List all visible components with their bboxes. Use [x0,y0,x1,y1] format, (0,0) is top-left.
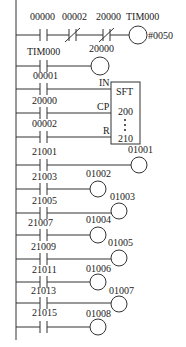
sft-end: 210 [118,133,133,144]
coil-label: 01002 [86,168,111,179]
timer-label: TIM000 [126,11,159,22]
contact-label: 21007 [28,217,53,228]
timer-preset: #0050 [148,30,173,41]
coil-label: 01004 [86,214,111,225]
sft-name: SFT [116,86,133,97]
sft-block: SFT 200 210 00001 IN 20000 CP 00002 R [16,70,140,144]
contact-label: 00001 [33,70,58,81]
ladder-diagram: 00000 00002 20000 TIM000 #0050 TIM000 20… [0,0,186,347]
timer-coil-icon [129,26,147,44]
contact-label: 00002 [32,118,57,129]
contact-label: 20000 [96,11,121,22]
contact-label: 21011 [32,264,57,275]
contact-label: 21005 [32,195,57,206]
output-rung: 21007 01004 [16,214,111,243]
output-rung: 21009 01005 [16,237,133,266]
output-rung: 21015 01008 [16,307,111,335]
contact-label: 20000 [32,95,57,106]
contact-label: 21009 [31,241,56,252]
contact-label: TIM000 [27,46,60,57]
contact-no [40,29,47,41]
contact-label: 00002 [62,11,87,22]
output-rung: 21001 01001 [16,144,153,173]
coil-label: 01007 [109,285,134,296]
coil-label: 20000 [89,43,114,54]
contact-label: 21001 [32,146,57,157]
output-rung: 21003 01002 [16,168,111,197]
rung-1: 00000 00002 20000 TIM000 #0050 [16,11,173,44]
contact-label: 21013 [31,285,56,296]
coil-label: 01006 [86,263,111,274]
contact-label: 00000 [30,11,55,22]
pin-label: R [103,125,110,136]
coil-label: 01008 [86,308,111,319]
pin-label: CP [97,101,110,112]
sft-start: 200 [118,106,133,117]
pin-label: IN [99,77,110,88]
contact-label: 21003 [32,171,57,182]
coil-icon [91,57,109,75]
rung-2: TIM000 20000 [16,43,114,75]
coil-label: 01005 [108,237,133,248]
contact-label: 21015 [32,307,57,318]
coil-label: 01001 [128,144,153,155]
coil-label: 01003 [110,191,135,202]
output-rung: 21005 01003 [16,191,135,219]
